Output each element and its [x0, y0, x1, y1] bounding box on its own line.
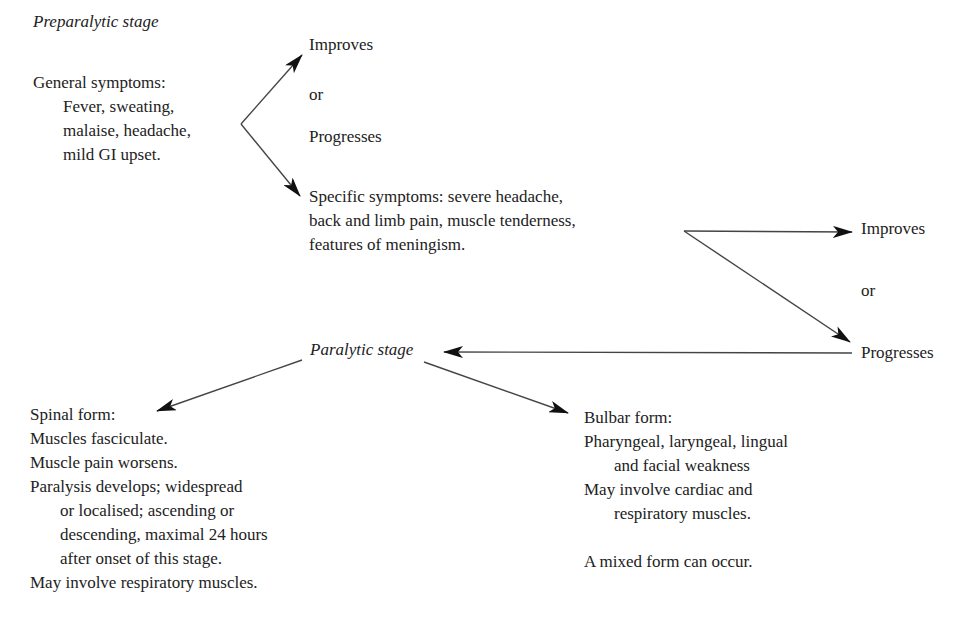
bulbar-form-line: respiratory muscles.	[584, 502, 788, 526]
spinal-form-title: Spinal form:	[30, 403, 268, 427]
arrow-to-paralytic-stage	[444, 352, 852, 353]
preparalytic-stage-heading: Preparalytic stage	[33, 10, 158, 34]
bulbar-form-line: and facial weakness	[584, 454, 788, 478]
specific-symptom-line: Specific symptoms: severe headache,	[309, 185, 576, 209]
general-symptom-line: Fever, sweating,	[33, 95, 191, 119]
spinal-form-line: Muscle pain worsens.	[30, 451, 268, 475]
spinal-form-line: Paralysis develops; widespread	[30, 475, 268, 499]
bulbar-form-line: Pharyngeal, laryngeal, lingual	[584, 430, 788, 454]
specific-symptom-line: back and limb pain, muscle tenderness,	[309, 209, 576, 233]
or-label-1: or	[309, 83, 323, 107]
improves-label-1: Improves	[309, 33, 373, 57]
arrow-to-improves-2	[684, 231, 852, 232]
general-symptoms-block: General symptoms: Fever, sweating, malai…	[33, 71, 191, 167]
arrow-to-specific-symptoms	[241, 124, 300, 196]
or-label-2: or	[861, 279, 875, 303]
spinal-form-line: after onset of this stage.	[30, 547, 268, 571]
bulbar-form-line: A mixed form can occur.	[584, 550, 788, 574]
paralytic-stage-heading: Paralytic stage	[310, 338, 413, 362]
specific-symptoms-block: Specific symptoms: severe headache, back…	[309, 185, 576, 257]
general-symptoms-title: General symptoms:	[33, 71, 191, 95]
bulbar-form-title: Bulbar form:	[584, 406, 788, 430]
bulbar-form-spacer	[584, 526, 788, 550]
spinal-form-line: descending, maximal 24 hours	[30, 523, 268, 547]
specific-symptom-line: features of meningism.	[309, 233, 576, 257]
spinal-form-line: Muscles fasciculate.	[30, 427, 268, 451]
improves-label-2: Improves	[861, 217, 925, 241]
spinal-form-line: or localised; ascending or	[30, 499, 268, 523]
general-symptom-line: mild GI upset.	[33, 143, 191, 167]
arrow-to-improves-1	[241, 55, 302, 124]
arrow-to-progresses-2	[684, 231, 850, 342]
bulbar-form-line: May involve cardiac and	[584, 478, 788, 502]
spinal-form-line: May involve respiratory muscles.	[30, 571, 268, 595]
spinal-form-block: Spinal form: Muscles fasciculate. Muscle…	[30, 403, 268, 595]
progresses-label-2: Progresses	[861, 341, 934, 365]
arrow-to-bulbar-form	[424, 362, 568, 413]
bulbar-form-block: Bulbar form: Pharyngeal, laryngeal, ling…	[584, 406, 788, 574]
progresses-label-1: Progresses	[309, 125, 382, 149]
general-symptom-line: malaise, headache,	[33, 119, 191, 143]
